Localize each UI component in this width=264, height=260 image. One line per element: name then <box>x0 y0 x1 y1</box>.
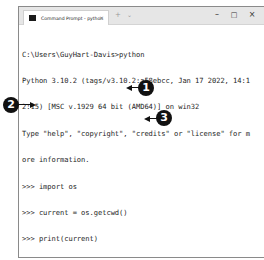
console-line: C:\Users\GuyHart-Davis>python <box>22 51 264 60</box>
callout-2-arrow-tip <box>30 102 36 108</box>
tab-title: Command Prompt - python <box>41 16 103 21</box>
callout-2-arrow <box>17 104 31 105</box>
command-prompt-window: Command Prompt - python × + ⌄ – □ × C:\U… <box>18 6 264 258</box>
tab-dropdown-icon[interactable]: ⌄ <box>127 11 132 18</box>
new-tab-button[interactable]: + <box>115 11 121 19</box>
console-line: >>> print(current) <box>22 235 264 244</box>
title-bar: Command Prompt - python × + ⌄ – □ × <box>19 7 264 25</box>
callout-1-arrow-tip <box>126 85 132 91</box>
console-line: Type "help", "copyright", "credits" or "… <box>22 130 264 139</box>
console-line: 2:15) [MSC v.1929 64 bit (AMD64)] on win… <box>22 103 264 112</box>
tab-close-icon[interactable]: × <box>99 14 104 21</box>
close-button[interactable]: × <box>244 10 260 19</box>
callout-3-arrow-tip <box>144 116 150 122</box>
callout-2: 2 <box>3 97 19 113</box>
console-output[interactable]: C:\Users\GuyHart-Davis>python Python 3.1… <box>22 33 264 260</box>
console-line: >>> import os <box>22 183 264 192</box>
minimize-button[interactable]: – <box>209 10 225 19</box>
callout-3: 3 <box>156 110 172 126</box>
maximize-button[interactable]: □ <box>226 11 242 19</box>
console-line: >>> current = os.getcwd() <box>22 209 264 218</box>
callout-1: 1 <box>138 80 154 96</box>
terminal-icon <box>29 15 36 21</box>
tab-command-prompt[interactable]: Command Prompt - python × <box>23 10 109 25</box>
console-line: ore information. <box>22 156 264 165</box>
